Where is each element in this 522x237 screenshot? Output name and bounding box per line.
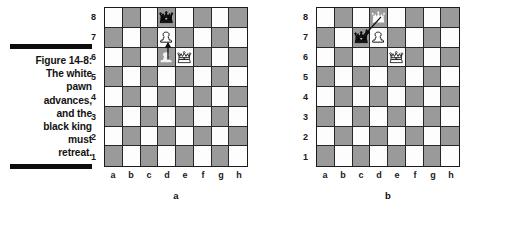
square-a3[interactable] <box>317 107 335 127</box>
square-c6[interactable] <box>353 48 371 68</box>
square-a8[interactable] <box>317 8 335 28</box>
square-g3[interactable] <box>212 107 230 127</box>
square-c8[interactable] <box>353 8 371 28</box>
square-d6[interactable] <box>370 48 388 68</box>
square-c7[interactable] <box>353 28 371 48</box>
square-d5[interactable] <box>158 67 176 87</box>
square-d2[interactable] <box>158 127 176 147</box>
square-e7[interactable] <box>388 28 406 48</box>
square-a4[interactable] <box>105 87 123 107</box>
square-c2[interactable] <box>141 127 159 147</box>
square-e7[interactable] <box>176 28 194 48</box>
square-f5[interactable] <box>194 67 212 87</box>
square-a1[interactable] <box>105 146 123 166</box>
square-h3[interactable] <box>441 107 459 127</box>
square-h6[interactable] <box>229 48 247 68</box>
square-e6[interactable] <box>388 48 406 68</box>
square-e8[interactable] <box>176 8 194 28</box>
square-d4[interactable] <box>158 87 176 107</box>
square-d8[interactable] <box>370 8 388 28</box>
square-c5[interactable] <box>141 67 159 87</box>
square-d2[interactable] <box>370 127 388 147</box>
square-b8[interactable] <box>335 8 353 28</box>
square-c3[interactable] <box>353 107 371 127</box>
square-h4[interactable] <box>441 87 459 107</box>
square-c7[interactable] <box>141 28 159 48</box>
square-h4[interactable] <box>229 87 247 107</box>
square-a6[interactable] <box>317 48 335 68</box>
square-b3[interactable] <box>123 107 141 127</box>
square-g8[interactable] <box>424 8 442 28</box>
square-g8[interactable] <box>212 8 230 28</box>
square-e4[interactable] <box>176 87 194 107</box>
square-b8[interactable] <box>123 8 141 28</box>
square-f7[interactable] <box>194 28 212 48</box>
square-b4[interactable] <box>335 87 353 107</box>
square-g7[interactable] <box>212 28 230 48</box>
square-g1[interactable] <box>424 146 442 166</box>
square-h2[interactable] <box>229 127 247 147</box>
square-b5[interactable] <box>335 67 353 87</box>
square-h1[interactable] <box>441 146 459 166</box>
square-b6[interactable] <box>335 48 353 68</box>
square-f3[interactable] <box>194 107 212 127</box>
square-f1[interactable] <box>194 146 212 166</box>
square-b7[interactable] <box>335 28 353 48</box>
square-h8[interactable] <box>229 8 247 28</box>
square-d1[interactable] <box>158 146 176 166</box>
square-a8[interactable] <box>105 8 123 28</box>
square-e4[interactable] <box>388 87 406 107</box>
square-a4[interactable] <box>317 87 335 107</box>
square-h7[interactable] <box>229 28 247 48</box>
square-g3[interactable] <box>424 107 442 127</box>
square-d6[interactable] <box>158 48 176 68</box>
square-e5[interactable] <box>176 67 194 87</box>
square-b7[interactable] <box>123 28 141 48</box>
square-g5[interactable] <box>424 67 442 87</box>
square-a7[interactable] <box>105 28 123 48</box>
square-g5[interactable] <box>212 67 230 87</box>
square-f4[interactable] <box>194 87 212 107</box>
square-d3[interactable] <box>158 107 176 127</box>
square-e1[interactable] <box>388 146 406 166</box>
square-f1[interactable] <box>406 146 424 166</box>
square-e6[interactable] <box>176 48 194 68</box>
square-d8[interactable] <box>158 8 176 28</box>
square-g4[interactable] <box>424 87 442 107</box>
square-e1[interactable] <box>176 146 194 166</box>
square-h1[interactable] <box>229 146 247 166</box>
square-h6[interactable] <box>441 48 459 68</box>
square-a1[interactable] <box>317 146 335 166</box>
square-g1[interactable] <box>212 146 230 166</box>
square-c2[interactable] <box>353 127 371 147</box>
square-f2[interactable] <box>406 127 424 147</box>
square-f7[interactable] <box>406 28 424 48</box>
square-b1[interactable] <box>123 146 141 166</box>
square-a3[interactable] <box>105 107 123 127</box>
square-d7[interactable] <box>158 28 176 48</box>
square-f8[interactable] <box>406 8 424 28</box>
square-h3[interactable] <box>229 107 247 127</box>
square-e5[interactable] <box>388 67 406 87</box>
square-g6[interactable] <box>424 48 442 68</box>
square-b2[interactable] <box>335 127 353 147</box>
square-e2[interactable] <box>176 127 194 147</box>
square-f4[interactable] <box>406 87 424 107</box>
square-b5[interactable] <box>123 67 141 87</box>
square-b1[interactable] <box>335 146 353 166</box>
square-a7[interactable] <box>317 28 335 48</box>
square-c4[interactable] <box>141 87 159 107</box>
square-c4[interactable] <box>353 87 371 107</box>
square-e3[interactable] <box>176 107 194 127</box>
square-e3[interactable] <box>388 107 406 127</box>
square-g7[interactable] <box>424 28 442 48</box>
square-b2[interactable] <box>123 127 141 147</box>
square-b3[interactable] <box>335 107 353 127</box>
square-c3[interactable] <box>141 107 159 127</box>
square-a2[interactable] <box>317 127 335 147</box>
square-f3[interactable] <box>406 107 424 127</box>
square-g2[interactable] <box>424 127 442 147</box>
square-f6[interactable] <box>194 48 212 68</box>
square-c6[interactable] <box>141 48 159 68</box>
square-d4[interactable] <box>370 87 388 107</box>
